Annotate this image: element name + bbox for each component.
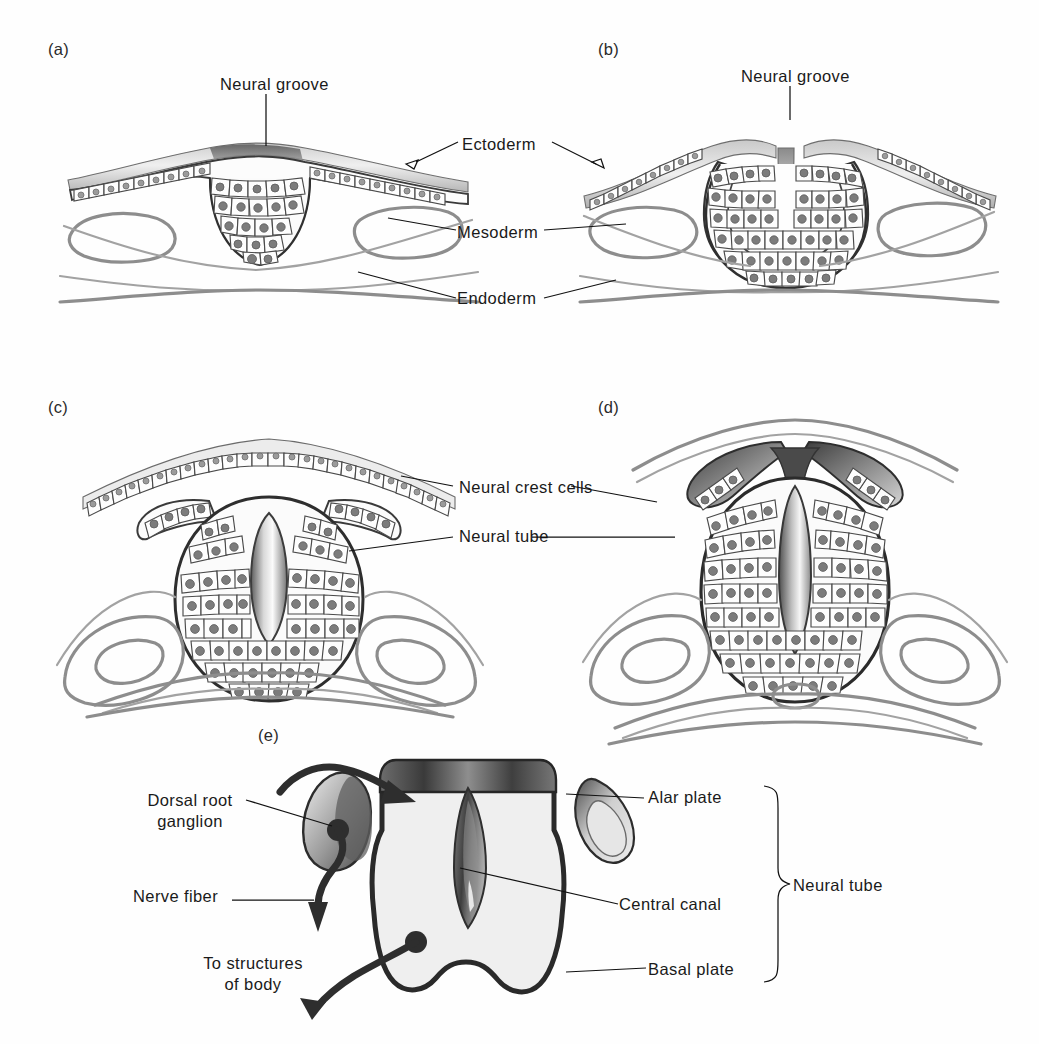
leader-endoderm: [340, 258, 640, 308]
panel-b-illustration: [580, 110, 1000, 310]
panel-label-b: (b): [598, 40, 619, 59]
panel-d-illustration: [575, 400, 1015, 750]
label-dorsal-root-ganglion: Dorsal root ganglion: [130, 790, 250, 832]
figure-canvas: (a): [0, 0, 1039, 1044]
leader-central-canal: [460, 860, 625, 914]
label-nerve-fiber: Nerve fiber: [133, 886, 218, 907]
leader-mesoderm: [380, 200, 640, 248]
leader-neural-groove-b: [784, 86, 798, 122]
leader-alar-plate: [566, 788, 656, 810]
leader-ectoderm: [400, 130, 640, 190]
leader-dorsal-root-ganglion: [246, 792, 366, 842]
to-structures-line2: of body: [225, 975, 282, 993]
label-neural-tube-bracket: Neural tube: [793, 875, 883, 896]
label-neural-groove-a: Neural groove: [220, 74, 329, 95]
dorsal-root-ganglion-line2: ganglion: [157, 812, 223, 830]
panel-c-illustration: [55, 405, 485, 725]
to-structures-line1: To structures: [203, 954, 303, 972]
leader-neural-groove-a: [260, 94, 274, 148]
leader-neural-crest-cells: [395, 460, 685, 520]
panel-label-a: (a): [48, 40, 69, 59]
dorsal-root-ganglion-line1: Dorsal root: [147, 791, 232, 809]
leader-nerve-fiber: [232, 890, 322, 910]
label-neural-groove-b: Neural groove: [741, 66, 850, 87]
leader-basal-plate: [566, 952, 656, 982]
label-to-structures-of-body: To structures of body: [188, 953, 318, 995]
label-basal-plate: Basal plate: [648, 959, 734, 980]
label-central-canal: Central canal: [619, 894, 721, 915]
label-alar-plate: Alar plate: [648, 787, 722, 808]
leader-neural-tube-cd: [345, 515, 695, 565]
